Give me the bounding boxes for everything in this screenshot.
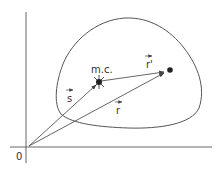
body-outline: [56, 18, 201, 128]
vector-r-label: r: [115, 102, 122, 116]
vector-s-label: s: [66, 90, 73, 104]
svg-text:r': r': [146, 59, 153, 70]
center-of-mass-label: m.c.: [91, 64, 113, 75]
center-of-mass-point: [94, 75, 104, 89]
vector-r-prime-label: r': [145, 56, 153, 70]
diagram-canvas: m.c. 0 s r' r: [0, 0, 223, 169]
svg-text:r: r: [116, 105, 121, 116]
origin-label: 0: [16, 151, 22, 162]
svg-text:s: s: [67, 93, 72, 104]
particle-point: [167, 67, 173, 73]
